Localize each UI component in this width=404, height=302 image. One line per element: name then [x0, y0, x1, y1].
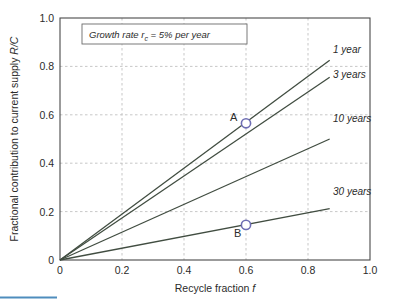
curve-label-10-years: 10 years — [333, 113, 371, 124]
curve-label-3-years: 3 years — [333, 69, 366, 80]
ytick-label-1.0: 1.0 — [39, 12, 54, 24]
y-axis-title-symbol: R/C — [8, 36, 20, 55]
data-marker-b-label: B — [234, 227, 241, 239]
recycle-fraction-chart: 1 year 3 years 10 years 30 years A B Gro… — [0, 0, 404, 302]
ytick-label-0.6: 0.6 — [39, 109, 54, 121]
ytick-label-0.8: 0.8 — [39, 60, 54, 72]
figure-container: 1 year 3 years 10 years 30 years A B Gro… — [0, 0, 404, 302]
annotation-text-prefix: Growth rate r — [89, 29, 145, 40]
data-marker-a[interactable] — [241, 119, 250, 128]
ytick-label-0: 0 — [48, 254, 54, 266]
y-axis-title-text: Fractional contribution to current suppl… — [8, 55, 20, 242]
curve-label-30-years: 30 years — [333, 186, 371, 197]
xtick-label-1.0: 1.0 — [363, 264, 378, 276]
x-axis-title-symbol: f — [252, 282, 256, 294]
xtick-label-0.8: 0.8 — [301, 264, 316, 276]
curve-label-1-year: 1 year — [333, 44, 361, 55]
ytick-label-0.4: 0.4 — [39, 157, 54, 169]
xtick-label-0.4: 0.4 — [177, 264, 192, 276]
xtick-label-0: 0 — [57, 264, 63, 276]
x-axis-title-text: Recycle fraction — [175, 282, 253, 294]
data-marker-a-label: A — [230, 111, 238, 123]
x-axis-title: Recycle fraction f — [175, 282, 257, 294]
xtick-label-0.2: 0.2 — [115, 264, 130, 276]
y-axis-title: Fractional contribution to current suppl… — [8, 36, 20, 241]
ytick-label-0.2: 0.2 — [39, 206, 54, 218]
plot-background — [60, 18, 370, 260]
data-marker-b[interactable] — [241, 220, 250, 229]
xtick-label-0.6: 0.6 — [239, 264, 254, 276]
annotation-text-suffix: = 5% per year — [148, 29, 211, 40]
annotation-text: Growth rate rc = 5% per year — [89, 29, 211, 42]
